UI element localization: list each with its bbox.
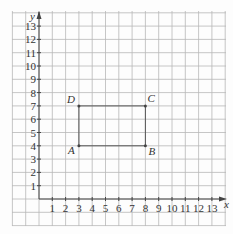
grid-lines xyxy=(12,11,226,226)
y-tick-label: 12 xyxy=(25,33,36,45)
x-axis-label: x xyxy=(223,198,229,210)
x-tick-label: 9 xyxy=(156,202,162,214)
point-d xyxy=(77,104,80,107)
x-tick-label: 11 xyxy=(180,202,191,214)
point-label-c: C xyxy=(147,92,155,104)
x-tick-label: 13 xyxy=(206,202,218,214)
y-arrow-icon xyxy=(37,11,42,19)
point-label-d: D xyxy=(66,93,75,105)
point-c xyxy=(144,104,147,107)
y-tick-label: 7 xyxy=(31,100,37,112)
x-tick-label: 2 xyxy=(63,202,69,214)
x-tick-label: 6 xyxy=(116,202,122,214)
x-tick-label: 7 xyxy=(129,202,135,214)
tick-labels: 1234567891011121312345678910111213 xyxy=(25,20,218,214)
point-label-a: A xyxy=(67,144,75,156)
y-tick-label: 5 xyxy=(31,127,37,139)
y-tick-label: 6 xyxy=(31,113,37,125)
x-tick-label: 10 xyxy=(167,202,179,214)
point-b xyxy=(144,144,147,147)
x-tick-label: 12 xyxy=(193,202,204,214)
y-tick-label: 4 xyxy=(31,140,37,152)
x-tick-label: 1 xyxy=(50,202,56,214)
point-label-b: B xyxy=(148,145,155,157)
coordinate-grid: 1234567891011121312345678910111213 ABCD … xyxy=(0,0,233,234)
x-tick-label: 8 xyxy=(143,202,149,214)
y-tick-label: 2 xyxy=(31,166,37,178)
x-tick-label: 4 xyxy=(89,202,95,214)
y-tick-label: 10 xyxy=(25,60,37,72)
y-tick-label: 1 xyxy=(31,180,37,192)
y-tick-label: 8 xyxy=(31,87,37,99)
point-a xyxy=(77,144,80,147)
x-tick-label: 5 xyxy=(103,202,109,214)
rectangle-outline xyxy=(79,106,145,146)
x-tick-label: 3 xyxy=(76,202,82,214)
y-tick-label: 9 xyxy=(31,73,37,85)
y-tick-label: 11 xyxy=(25,47,36,59)
y-axis-label: y xyxy=(29,10,35,22)
rectangle-abcd: ABCD xyxy=(66,92,155,157)
y-tick-label: 3 xyxy=(31,153,37,165)
